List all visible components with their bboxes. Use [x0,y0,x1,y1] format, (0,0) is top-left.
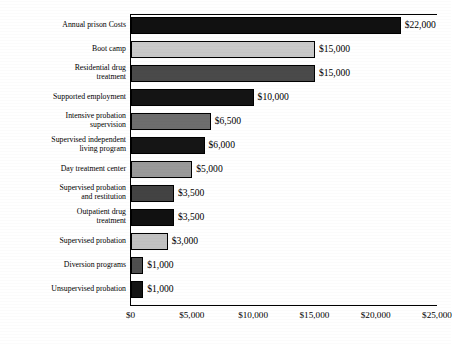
bar [131,17,401,34]
category-label: Supervised probationand restitution [2,183,126,202]
x-tick-label: $25,000 [422,310,452,321]
category-label: Boot camp [2,44,126,53]
bar [131,161,192,178]
category-label-line: Day treatment center [2,164,126,173]
category-label-line: Unsupervised probation [2,284,126,293]
category-label-line: Supported employment [2,92,126,101]
bar-value-label: $3,500 [178,188,204,198]
category-label: Supported employment [2,92,126,101]
bar-value-label: $5,000 [196,164,222,174]
bar-value-label: $3,500 [178,212,204,222]
x-tick-label: $20,000 [361,310,391,321]
bar-value-label: $15,000 [319,68,350,78]
bar [131,209,174,226]
category-label-line: living program [2,144,126,153]
category-label-line: Supervised independent [2,135,126,144]
bar-value-label: $6,500 [215,116,241,126]
category-label: Residential drugtreatment [2,63,126,82]
category-label-line: supervision [2,120,126,129]
category-label: Day treatment center [2,164,126,173]
bar-value-label: $1,000 [147,260,173,270]
bar [131,257,143,274]
category-label: Annual prison Costs [2,20,126,29]
bar [131,41,315,58]
bar [131,185,174,202]
x-axis-line [130,305,437,306]
category-label-line: Boot camp [2,44,126,53]
category-label: Outpatient drugtreatment [2,207,126,226]
x-tick-label: $5,000 [179,310,204,321]
x-tick-label: $15,000 [299,310,329,321]
bar-value-label: $15,000 [319,44,350,54]
category-label-line: Residential drug [2,63,126,72]
bar [131,281,143,298]
plot-top-border [130,14,437,15]
category-label: Unsupervised probation [2,284,126,293]
bar-value-label: $10,000 [258,92,289,102]
bar [131,113,211,130]
category-label: Intensive probationsupervision [2,111,126,130]
x-tick-label: $10,000 [238,310,268,321]
category-label-line: Supervised probation [2,236,126,245]
bar [131,233,168,250]
x-tick-label: $0 [126,310,135,321]
category-label-line: Intensive probation [2,111,126,120]
bar [131,89,254,106]
bar-value-label: $3,000 [172,236,198,246]
category-label: Supervised independentliving program [2,135,126,154]
bar-value-label: $22,000 [405,20,436,30]
bar-value-label: $6,000 [209,140,235,150]
category-label-line: and restitution [2,192,126,201]
category-label-line: treatment [2,216,126,225]
category-label-line: Supervised probation [2,183,126,192]
bar [131,65,315,82]
category-label-line: treatment [2,72,126,81]
category-label-line: Annual prison Costs [2,20,126,29]
bar [131,137,205,154]
category-label: Diversion programs [2,260,126,269]
category-label: Supervised probation [2,236,126,245]
category-label-line: Outpatient drug [2,207,126,216]
bar-value-label: $1,000 [147,284,173,294]
category-label-line: Diversion programs [2,260,126,269]
